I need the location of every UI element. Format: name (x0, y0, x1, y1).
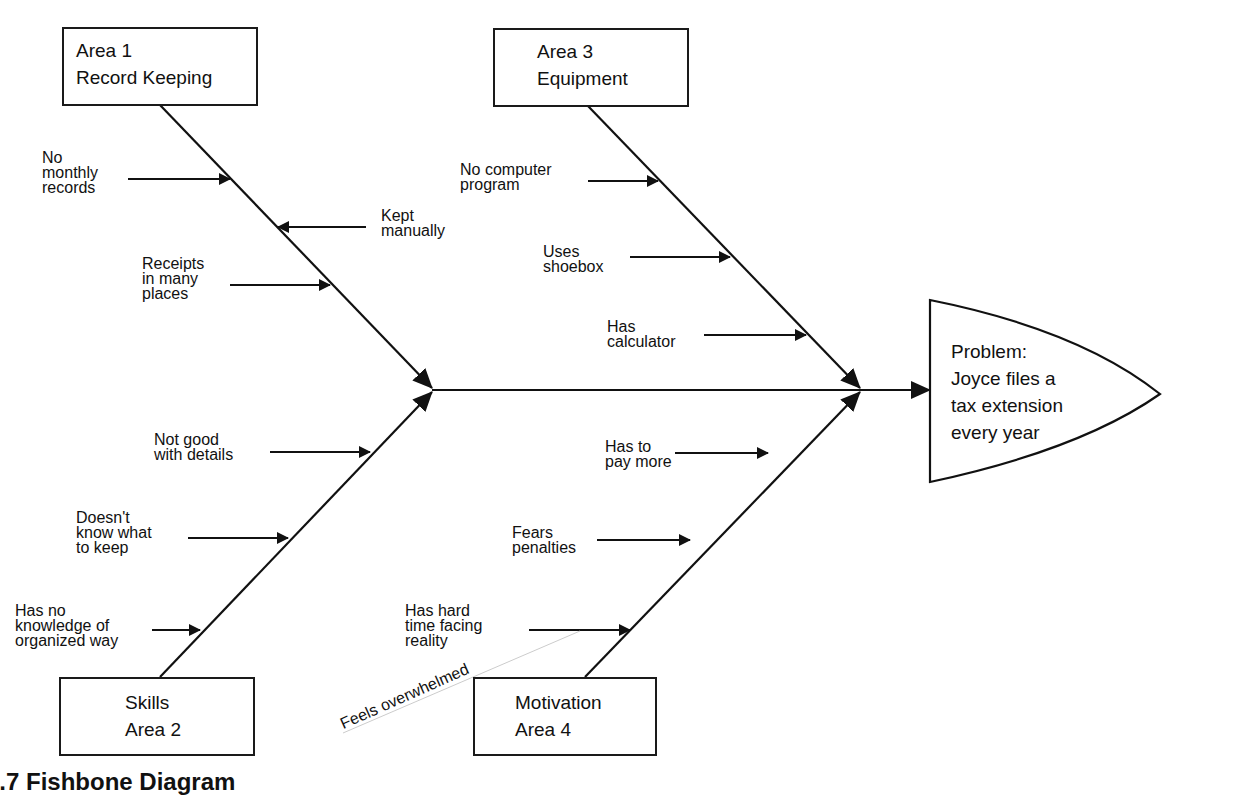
cause-has-to-pay-more: Has to pay more (605, 439, 672, 469)
cause-line: shoebox (543, 259, 604, 274)
cause-line: manually (381, 223, 445, 238)
area2-label: Area 2 (125, 716, 253, 743)
area2-title: Skills (125, 689, 253, 716)
cause-hard-time-facing-reality: Has hard time facing reality (405, 603, 482, 648)
cause-line: Receipts (142, 256, 204, 271)
cause-line: Not good (154, 432, 233, 447)
cause-line: with details (154, 447, 233, 462)
area1-box: Area 1 Record Keeping (62, 27, 258, 106)
cause-not-good-with-details: Not good with details (154, 432, 233, 462)
cause-line: knowledge of (15, 618, 118, 633)
cause-line: Has (607, 319, 675, 334)
cause-line: monthly (42, 165, 98, 180)
cause-uses-shoebox: Uses shoebox (543, 244, 604, 274)
area3-label: Area 3 (537, 38, 687, 65)
cause-no-monthly-records: No monthly records (42, 150, 98, 195)
cause-line: calculator (607, 334, 675, 349)
cause-line: No computer (460, 162, 552, 177)
area1-label: Area 1 (76, 37, 256, 64)
cause-line: program (460, 177, 552, 192)
area4-label: Area 4 (515, 716, 655, 743)
cause-line: penalties (512, 540, 576, 555)
cause-line: Has to (605, 439, 672, 454)
area4-box: Motivation Area 4 (473, 677, 657, 756)
area1-title: Record Keeping (76, 64, 256, 91)
cause-line: Doesn't (76, 510, 152, 525)
figure-caption: 1.7 Fishbone Diagram (0, 768, 235, 796)
cause-line: know what (76, 525, 152, 540)
cause-line: to keep (76, 540, 152, 555)
cause-line: organized way (15, 633, 118, 648)
cause-no-computer-program: No computer program (460, 162, 552, 192)
problem-line: Joyce files a (951, 365, 1063, 392)
cause-no-knowledge-organized-way: Has no knowledge of organized way (15, 603, 118, 648)
area3-box: Area 3 Equipment (493, 28, 689, 107)
cause-doesnt-know-what-to-keep: Doesn't know what to keep (76, 510, 152, 555)
cause-line: No (42, 150, 98, 165)
cause-line: records (42, 180, 98, 195)
problem-line: Problem: (951, 338, 1063, 365)
cause-line: Kept (381, 208, 445, 223)
area3-title: Equipment (537, 65, 687, 92)
cause-line: in many (142, 271, 204, 286)
area4-title: Motivation (515, 689, 655, 716)
cause-receipts-many-places: Receipts in many places (142, 256, 204, 301)
bone-area1 (160, 105, 432, 388)
cause-line: Uses (543, 244, 604, 259)
cause-line: Fears (512, 525, 576, 540)
cause-line: pay more (605, 454, 672, 469)
bone-area4 (585, 392, 860, 677)
cause-line: Has no (15, 603, 118, 618)
cause-line: reality (405, 633, 482, 648)
cause-kept-manually: Kept manually (381, 208, 445, 238)
problem-line: every year (951, 419, 1063, 446)
cause-has-calculator: Has calculator (607, 319, 675, 349)
cause-line: time facing (405, 618, 482, 633)
cause-line: Has hard (405, 603, 482, 618)
area2-box: Skills Area 2 (59, 677, 255, 756)
problem-line: tax extension (951, 392, 1063, 419)
cause-fears-penalties: Fears penalties (512, 525, 576, 555)
problem-text: Problem: Joyce files a tax extension eve… (951, 338, 1063, 446)
cause-line: places (142, 286, 204, 301)
